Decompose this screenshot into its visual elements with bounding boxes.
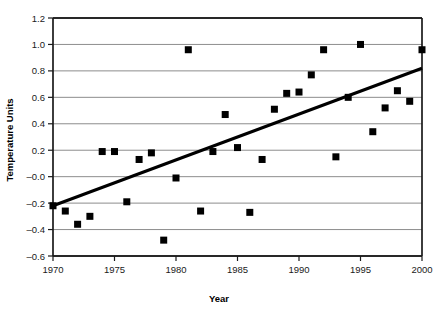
- data-point: [62, 208, 69, 215]
- x-tick-label: 1990: [288, 264, 309, 275]
- data-point: [86, 213, 93, 220]
- y-tick-label: 0.2: [32, 145, 45, 156]
- data-point: [74, 221, 81, 228]
- y-tick-label: –0.6: [27, 251, 46, 262]
- data-point: [332, 153, 339, 160]
- x-axis-tick-labels: 1970197519801985199019952000: [42, 264, 432, 275]
- trend-line: [53, 68, 422, 206]
- x-tick-label: 1985: [227, 264, 248, 275]
- scatter-chart: 1970197519801985199019952000 –0.6–0.4–0.…: [0, 0, 438, 312]
- data-point: [259, 156, 266, 163]
- data-point: [357, 41, 364, 48]
- y-tick-label: –0.2: [27, 198, 46, 209]
- y-tick-label: –0.0: [27, 171, 46, 182]
- data-point: [99, 148, 106, 155]
- x-tick-label: 2000: [411, 264, 432, 275]
- y-tick-label: 0.6: [32, 92, 45, 103]
- data-point: [419, 46, 426, 53]
- y-axis-tick-labels: –0.6–0.4–0.2–0.00.20.40.60.81.01.2: [27, 13, 46, 262]
- x-axis-title: Year: [209, 293, 229, 304]
- data-point: [406, 98, 413, 105]
- x-tick-label: 1995: [350, 264, 371, 275]
- data-point: [160, 237, 167, 244]
- data-point: [345, 94, 352, 101]
- y-axis-title: Temperature Units: [4, 98, 15, 181]
- data-point: [222, 111, 229, 118]
- data-point: [369, 128, 376, 135]
- data-point: [271, 106, 278, 113]
- x-tick-label: 1980: [165, 264, 186, 275]
- y-tick-label: 0.4: [32, 118, 45, 129]
- data-point: [111, 148, 118, 155]
- data-point: [50, 202, 57, 209]
- data-point-markers: [50, 41, 426, 244]
- x-tick-label: 1970: [42, 264, 63, 275]
- data-point: [296, 89, 303, 96]
- data-point: [283, 90, 290, 97]
- data-point: [173, 174, 180, 181]
- y-tick-label: –0.4: [27, 224, 46, 235]
- data-point: [123, 198, 130, 205]
- data-point: [209, 148, 216, 155]
- x-tick-label: 1975: [104, 264, 125, 275]
- data-point: [234, 144, 241, 151]
- data-point: [185, 46, 192, 53]
- data-point: [382, 104, 389, 111]
- data-point: [148, 149, 155, 156]
- y-tick-label: 1.0: [32, 39, 45, 50]
- data-point: [394, 87, 401, 94]
- data-point: [320, 46, 327, 53]
- data-point: [197, 208, 204, 215]
- trend-line-segment: [53, 68, 422, 206]
- chart-canvas: 1970197519801985199019952000 –0.6–0.4–0.…: [0, 0, 438, 312]
- y-tick-label: 0.8: [32, 65, 45, 76]
- data-point: [308, 71, 315, 78]
- data-point: [136, 156, 143, 163]
- data-point: [246, 209, 253, 216]
- y-tick-label: 1.2: [32, 13, 45, 24]
